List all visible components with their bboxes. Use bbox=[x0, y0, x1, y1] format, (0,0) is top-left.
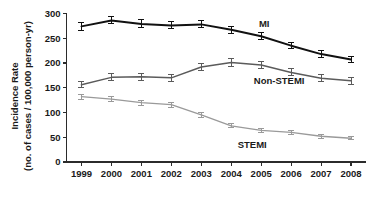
series-label-stemi: STEMI bbox=[238, 139, 267, 150]
x-axis-tick-label: 2008 bbox=[340, 168, 361, 179]
incidence-rate-line-chart: Incidence Rate (no. of cases / 100,000 p… bbox=[0, 0, 377, 206]
y-axis-tick-label: 50 bbox=[50, 132, 61, 143]
y-axis-tick-label: 150 bbox=[45, 82, 61, 93]
y-axis-tick-label: 100 bbox=[45, 107, 61, 118]
y-axis-tick-label: 300 bbox=[45, 8, 61, 19]
series-line-path bbox=[81, 63, 351, 85]
series-mi bbox=[78, 17, 354, 63]
y-axis-tick-label: 0 bbox=[55, 156, 60, 167]
x-axis-tick-label: 2005 bbox=[251, 168, 273, 179]
y-axis: 050100150200250300 bbox=[45, 8, 67, 168]
y-axis-tick-label: 250 bbox=[45, 33, 61, 44]
x-axis-tick-label: 2000 bbox=[101, 168, 122, 179]
chart-canvas: Incidence Rate (no. of cases / 100,000 p… bbox=[0, 0, 377, 206]
series-non-stemi bbox=[78, 59, 354, 88]
series-line-path bbox=[81, 20, 351, 59]
series-line-path bbox=[81, 97, 351, 139]
y-axis-tick-label: 200 bbox=[45, 57, 61, 68]
x-axis-tick-label: 2006 bbox=[281, 168, 302, 179]
y-axis-title-line2: (no. of cases / 100,000 person-yr) bbox=[22, 21, 33, 171]
series-label-non-stemi: Non-STEMI bbox=[254, 75, 305, 86]
series-label-mi: MI bbox=[259, 18, 270, 29]
x-axis-tick-label: 1999 bbox=[71, 168, 92, 179]
x-axis-tick-label: 2004 bbox=[221, 168, 243, 179]
x-axis-tick-label: 2002 bbox=[161, 168, 182, 179]
y-axis-title: Incidence Rate (no. of cases / 100,000 p… bbox=[9, 21, 33, 171]
y-axis-title-line1: Incidence Rate bbox=[9, 62, 20, 129]
x-axis-tick-label: 2003 bbox=[191, 168, 212, 179]
series-lines bbox=[78, 17, 354, 140]
x-axis-tick-label: 2007 bbox=[311, 168, 332, 179]
x-axis-tick-label: 2001 bbox=[131, 168, 153, 179]
x-axis: 1999200020012002200320042005200620072008 bbox=[67, 162, 367, 179]
series-stemi bbox=[78, 94, 354, 140]
